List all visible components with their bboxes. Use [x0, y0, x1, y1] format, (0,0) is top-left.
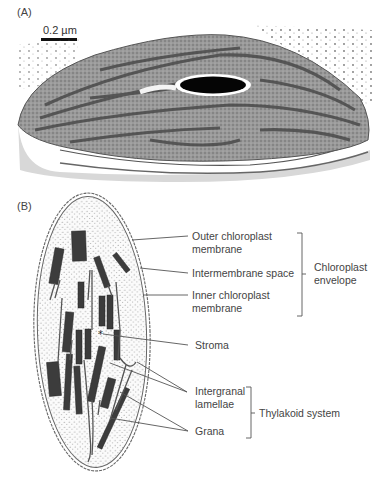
inner-membrane: [33, 195, 151, 470]
label-intermembrane-space: Intermembrane space: [192, 267, 294, 280]
stroma-marker-icon: *: [98, 329, 103, 340]
label-thylakoid-system: Thylakoid system: [259, 407, 340, 420]
label-outer-membrane: Outer chloroplast membrane: [192, 230, 272, 255]
thylakoid-bracket: [246, 387, 251, 438]
label-intergranal-lamellae: Intergranal lamellae: [195, 385, 245, 410]
label-stroma: Stroma: [195, 339, 229, 352]
label-chloroplast-envelope: Chloroplast envelope: [314, 261, 367, 286]
label-inner-membrane: Inner chloroplast membrane: [192, 289, 270, 314]
label-grana: Grana: [195, 425, 224, 438]
envelope-bracket: [297, 233, 302, 316]
